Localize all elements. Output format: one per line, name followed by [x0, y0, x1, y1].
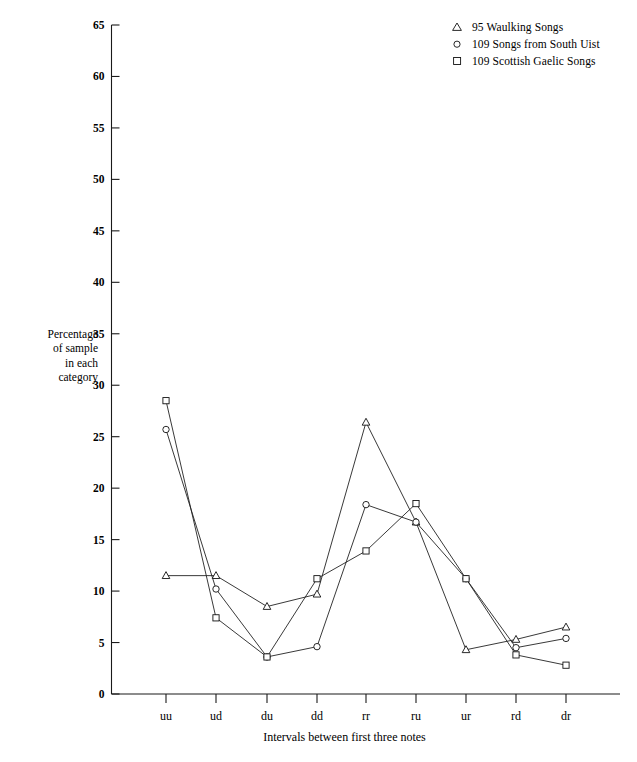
- triangle-marker-icon: [452, 21, 472, 32]
- square-marker-icon: [363, 548, 369, 554]
- square-marker-icon: [463, 576, 469, 582]
- square-marker-icon: [213, 615, 219, 621]
- series-circle: [163, 426, 569, 660]
- circle-marker-icon: [163, 426, 169, 432]
- legend-item-label: 109 Songs from South Uist: [472, 38, 600, 50]
- y-tick-label: 55: [93, 122, 105, 134]
- legend-item: 95 Waulking Songs: [452, 18, 632, 35]
- y-tick-label: 5: [99, 637, 105, 649]
- y-tick-label: 0: [99, 688, 105, 700]
- y-tick-label: 45: [93, 225, 105, 237]
- triangle-marker-icon: [313, 590, 321, 597]
- circle-marker-icon: [363, 501, 369, 507]
- triangle-marker-icon: [362, 418, 370, 425]
- legend-item-label: 95 Waulking Songs: [472, 21, 563, 33]
- chart-legend: 95 Waulking Songs 109 Songs from South U…: [452, 18, 632, 69]
- x-tick-label: rd: [511, 709, 521, 723]
- y-tick-label: 15: [93, 534, 105, 546]
- y-tick-label: 65: [93, 19, 105, 31]
- series-line: [166, 422, 566, 649]
- square-marker-icon: [314, 576, 320, 582]
- circle-marker-icon: [452, 38, 472, 49]
- x-tick-label: ur: [461, 709, 471, 723]
- square-marker-icon: [452, 55, 472, 66]
- legend-item: 109 Songs from South Uist: [452, 35, 632, 52]
- square-marker-icon: [264, 654, 270, 660]
- legend-item-label: 109 Scottish Gaelic Songs: [472, 55, 596, 67]
- x-tick-label: rr: [362, 709, 370, 723]
- circle-marker-icon: [563, 635, 569, 641]
- y-axis-title-line: in each: [12, 356, 98, 370]
- y-tick-label: 10: [93, 585, 105, 597]
- series-line: [166, 429, 566, 656]
- x-tick-label: uu: [160, 709, 172, 723]
- y-tick-label: 20: [93, 482, 105, 494]
- x-axis-title-text: Intervals between first three notes: [263, 730, 426, 744]
- square-marker-icon: [163, 398, 169, 404]
- x-tick-label: du: [261, 709, 273, 723]
- triangle-marker-icon: [162, 572, 170, 579]
- triangle-marker-icon: [212, 572, 220, 579]
- series-square: [163, 398, 569, 669]
- square-marker-icon: [513, 652, 519, 658]
- x-tick-label: ru: [411, 709, 421, 723]
- x-tick-label: dr: [561, 709, 571, 723]
- circle-marker-icon: [213, 586, 219, 592]
- y-axis-title: Percentage of sample in each category: [12, 327, 98, 385]
- circle-marker-icon: [513, 644, 519, 650]
- circle-marker-icon: [314, 643, 320, 649]
- y-tick-label: 60: [93, 70, 105, 82]
- legend-item: 109 Scottish Gaelic Songs: [452, 52, 632, 69]
- square-marker-icon: [563, 662, 569, 668]
- chart-figure: 05101520253035404550556065uuudduddrrruur…: [0, 0, 637, 762]
- y-axis-title-line: Percentage: [12, 327, 98, 341]
- y-tick-label: 40: [93, 276, 105, 288]
- x-axis-title: Intervals between first three notes: [0, 730, 637, 745]
- square-marker-icon: [413, 500, 419, 506]
- triangle-marker-icon: [562, 623, 570, 630]
- series-line: [166, 401, 566, 666]
- x-tick-label: dd: [311, 709, 323, 723]
- series-triangle: [162, 418, 570, 652]
- y-tick-label: 50: [93, 173, 105, 185]
- circle-marker-icon: [413, 519, 419, 525]
- y-tick-label: 25: [93, 431, 105, 443]
- y-axis-title-line: of sample: [12, 341, 98, 355]
- y-axis-title-line: category: [12, 370, 98, 384]
- x-tick-label: ud: [210, 709, 222, 723]
